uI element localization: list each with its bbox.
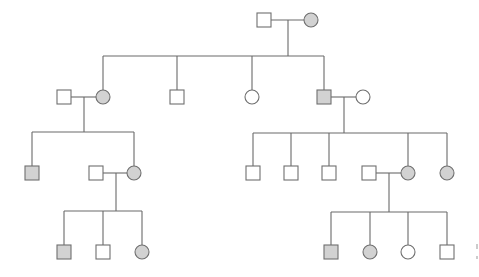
male-square-icon (96, 245, 110, 259)
affected-female-circle-icon (96, 90, 110, 104)
affected-male-square-icon (317, 90, 331, 104)
affected-female-circle-icon (440, 166, 454, 180)
affected-male-square-icon (57, 245, 71, 259)
male-square-icon (322, 166, 336, 180)
affected-female-circle-icon (135, 245, 149, 259)
male-square-icon (89, 166, 103, 180)
male-square-icon (246, 166, 260, 180)
affected-male-square-icon (324, 245, 338, 259)
female-circle-icon (356, 90, 370, 104)
pedigree-chart (0, 0, 479, 277)
male-square-icon (284, 166, 298, 180)
male-square-icon (170, 90, 184, 104)
affected-female-circle-icon (304, 13, 318, 27)
affected-male-square-icon (25, 166, 39, 180)
male-square-icon (257, 13, 271, 27)
individuals (25, 13, 454, 259)
affected-female-circle-icon (127, 166, 141, 180)
female-circle-icon (401, 245, 415, 259)
pedigree-svg (0, 0, 479, 277)
affected-female-circle-icon (401, 166, 415, 180)
male-square-icon (57, 90, 71, 104)
relationship-lines (32, 20, 447, 245)
affected-female-circle-icon (363, 245, 377, 259)
female-circle-icon (245, 90, 259, 104)
male-square-icon (440, 245, 454, 259)
male-square-icon (362, 166, 376, 180)
